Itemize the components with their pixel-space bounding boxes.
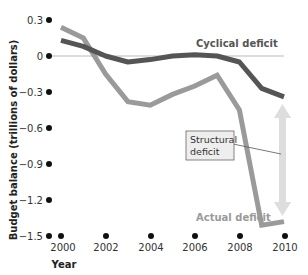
structural-label-line2: deficit bbox=[190, 146, 220, 157]
y-tick-label: 0.3 bbox=[27, 15, 43, 26]
y-tick-label: −1.2 bbox=[19, 195, 43, 206]
x-axis-title: Year bbox=[51, 259, 77, 270]
structural-deficit-arrow bbox=[274, 104, 291, 216]
x-tick-label: 2006 bbox=[182, 242, 207, 253]
y-tick-label: −1.5 bbox=[19, 231, 43, 242]
x-axis: 2000 2002 2004 2006 2008 2010 bbox=[50, 233, 297, 253]
structural-label-line1: Structural bbox=[190, 134, 237, 145]
actual-deficit-label: Actual deficit bbox=[196, 212, 271, 223]
cyclical-deficit-label: Cyclical deficit bbox=[196, 38, 278, 49]
x-tick-label: 2004 bbox=[138, 242, 163, 253]
x-tick-label: 2002 bbox=[93, 242, 118, 253]
x-tick-label: 2008 bbox=[227, 242, 252, 253]
y-tick-label: −0.9 bbox=[19, 159, 43, 170]
y-tick-label: −0.6 bbox=[19, 123, 43, 134]
x-tick-label: 2010 bbox=[272, 242, 297, 253]
y-axis: 0.3 0 −0.3 −0.6 −0.9 −1.2 −1.5 bbox=[19, 15, 52, 242]
structural-leader-line bbox=[233, 144, 281, 154]
budget-chart: 0.3 0 −0.3 −0.6 −0.9 −1.2 −1.5 Budget ba… bbox=[0, 0, 308, 275]
y-axis-title: Budget balance (trillions of dollars) bbox=[8, 40, 19, 241]
x-tick-label: 2000 bbox=[50, 242, 75, 253]
y-tick-label: 0 bbox=[37, 51, 43, 62]
y-tick-label: −0.3 bbox=[19, 87, 43, 98]
